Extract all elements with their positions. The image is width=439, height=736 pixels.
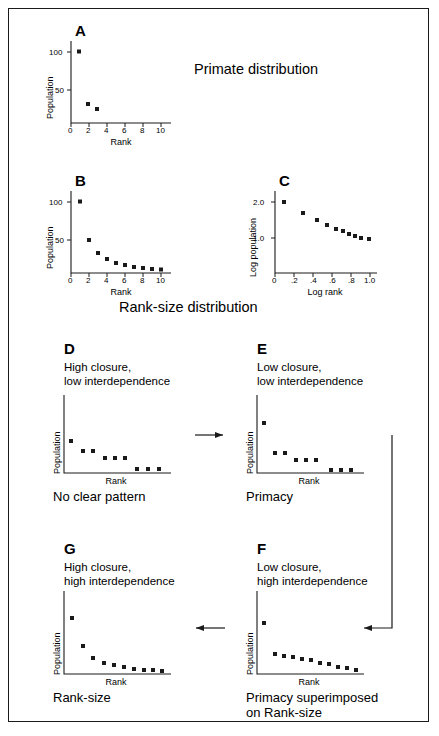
panel-b: B Population 100 50 0 2 4 6 8 10 Rank — [31, 169, 201, 289]
panel-a-xlabel: Rank — [71, 138, 171, 147]
panel-c: C Log population 2.0 1.0 0 .2 .4 .6 .8 1… — [237, 169, 417, 289]
panel-e-plot — [237, 339, 412, 509]
panel-a-title: Primate distribution — [194, 61, 318, 77]
panel-f-plot — [237, 539, 422, 719]
panel-e-points — [262, 421, 353, 472]
panel-b-xlabel: Rank — [71, 288, 171, 297]
figure-frame: A Population 100 50 0 2 4 6 8 10 Rank Pr… — [8, 8, 429, 722]
panel-d-points — [69, 439, 161, 471]
panel-c-points — [282, 200, 371, 241]
panel-b-plot — [31, 169, 201, 289]
panel-f: F Low closure, high interdependence Popu… — [237, 539, 422, 719]
panel-g: G High closure, high interdependence Pop… — [31, 539, 206, 714]
panel-c-plot — [237, 169, 417, 289]
panel-c-xlabel: Log rank — [275, 288, 375, 297]
panel-d: D High closure, low interdependence Popu… — [31, 339, 206, 509]
panel-g-points — [70, 616, 164, 673]
panel-b-points — [78, 200, 163, 272]
panel-f-points — [262, 621, 358, 672]
panel-a: A Population 100 50 0 2 4 6 8 10 Rank — [31, 19, 201, 139]
panel-e: E Low closure, low interdependence Popul… — [237, 339, 412, 509]
panel-d-plot — [31, 339, 206, 509]
panel-a-plot — [31, 19, 201, 139]
center-caption: Rank-size distribution — [119, 299, 258, 315]
panel-a-points — [77, 50, 99, 112]
panel-g-plot — [31, 539, 206, 714]
